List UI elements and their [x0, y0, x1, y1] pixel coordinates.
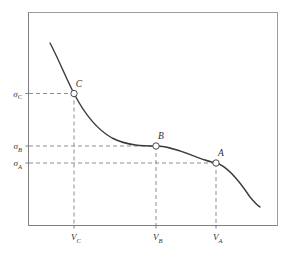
y-tick-label-sigma-b-sub: B	[18, 146, 22, 153]
y-tick-label-sigma-a-sub: A	[17, 163, 22, 170]
point-marker-b	[153, 143, 159, 149]
chart-figure: C B A σC σB σA VC VB VA	[0, 0, 297, 253]
point-label-a: A	[217, 148, 224, 158]
chart-background	[0, 0, 297, 253]
point-marker-a	[213, 160, 219, 166]
point-label-c: C	[76, 79, 83, 89]
x-tick-label-vc-sub: C	[77, 237, 82, 244]
x-tick-label-vb-sub: B	[159, 237, 163, 244]
y-tick-label-sigma-c-sub: C	[18, 93, 23, 100]
x-tick-label-va-sub: A	[218, 237, 223, 244]
point-label-b: B	[158, 131, 164, 141]
chart-svg: C B A σC σB σA VC VB VA	[0, 0, 297, 253]
point-marker-c	[71, 90, 77, 96]
